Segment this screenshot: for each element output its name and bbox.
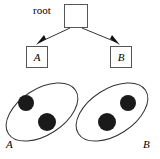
cluster-ellipse-a bbox=[0, 71, 88, 153]
edge-root-to-a bbox=[40, 28, 70, 42]
root-label: root bbox=[33, 4, 51, 16]
cluster-a-point-2 bbox=[38, 113, 56, 131]
cluster-label-a: A bbox=[5, 138, 13, 150]
cluster-b-point-1 bbox=[120, 95, 136, 111]
diagram-figure: root A B A B bbox=[0, 0, 160, 159]
diagram-canvas: root A B A B bbox=[0, 0, 160, 159]
root-node-box[interactable] bbox=[65, 5, 88, 28]
cluster-label-b: B bbox=[143, 138, 150, 150]
cluster-b-point-2 bbox=[98, 113, 116, 131]
edge-root-to-b bbox=[82, 28, 116, 42]
node-label-a: A bbox=[33, 51, 41, 63]
node-label-b: B bbox=[118, 51, 125, 63]
cluster-a-point-1 bbox=[18, 95, 34, 111]
